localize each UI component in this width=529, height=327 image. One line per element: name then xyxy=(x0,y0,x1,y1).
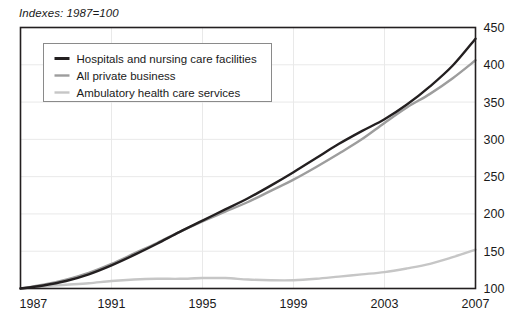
y-tick-label: 150 xyxy=(484,245,505,259)
chart-legend: Hospitals and nursing care facilitiesAll… xyxy=(44,44,272,102)
y-tick-label: 400 xyxy=(484,58,505,72)
y-tick-label: 350 xyxy=(484,96,505,110)
y-axis-tick-labels: 100150200250300350400450 xyxy=(484,21,505,296)
x-tick-label: 1995 xyxy=(189,297,217,311)
series-line-3 xyxy=(21,250,476,289)
x-tick-label: 1987 xyxy=(20,297,48,311)
y-tick-label: 250 xyxy=(484,170,505,184)
y-tick-label: 100 xyxy=(484,282,505,296)
y-tick-label: 300 xyxy=(484,133,505,147)
x-tick-label: 1999 xyxy=(280,297,308,311)
x-tick-label: 2003 xyxy=(371,297,399,311)
legend-label-3: Ambulatory health care services xyxy=(77,87,241,99)
x-tick-label: 2007 xyxy=(462,297,490,311)
chart-container: Indexes: 1987=100 1001502002503003504004… xyxy=(0,0,529,327)
x-axis-tick-labels: 198719911995199920032007 xyxy=(20,297,490,311)
y-tick-label: 450 xyxy=(484,21,505,35)
legend-label-1: Hospitals and nursing care facilities xyxy=(77,53,258,65)
x-tick-label: 1991 xyxy=(98,297,126,311)
legend-label-2: All private business xyxy=(77,70,176,82)
line-chart-plot: 100150200250300350400450 198719911995199… xyxy=(0,0,529,327)
y-tick-label: 200 xyxy=(484,207,505,221)
